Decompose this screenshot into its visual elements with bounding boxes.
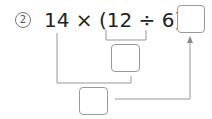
product-input-box[interactable]: [79, 87, 108, 115]
intermediate-input-box[interactable]: [111, 44, 140, 72]
arrow-up-icon: [187, 36, 193, 43]
answer-input-box[interactable]: [177, 5, 205, 33]
